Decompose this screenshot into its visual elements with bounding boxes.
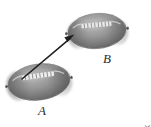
football-displacement-figure: A B RTimages/Shutterstock bbox=[0, 0, 151, 127]
label-a: A bbox=[38, 104, 46, 117]
figure-canvas bbox=[0, 0, 151, 127]
label-b: B bbox=[103, 52, 111, 65]
credit-container: RTimages/Shutterstock bbox=[137, 0, 151, 127]
football-a bbox=[3, 59, 75, 104]
photo-credit: RTimages/Shutterstock bbox=[142, 125, 151, 127]
football-b bbox=[64, 11, 131, 51]
